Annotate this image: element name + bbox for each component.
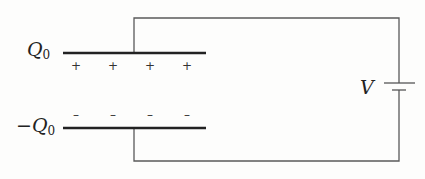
top-wire [134,18,399,83]
positive-charge-sign: + [108,60,118,72]
negative-charge-sign: – [147,109,153,121]
positive-charge-sign: + [145,60,155,72]
charge-subscript: 0 [43,48,51,62]
positive-charge-sign: + [182,60,192,72]
negative-charge-sign: – [184,109,190,121]
capacitor-circuit-diagram: Q0 −Q0 + + + + – – – – V [0,0,425,179]
battery-voltage-label: V [360,78,374,97]
negative-charge-sign: – [73,109,79,121]
top-plate-charge-label: Q0 [27,40,50,61]
charge-subscript: 0 [48,124,56,138]
charge-symbol: −Q [16,114,48,136]
negative-charge-sign: – [110,109,116,121]
charge-symbol: Q [27,38,43,60]
positive-charge-sign: + [71,60,81,72]
bottom-plate-charge-label: −Q0 [16,116,55,137]
bottom-wire [134,90,399,161]
